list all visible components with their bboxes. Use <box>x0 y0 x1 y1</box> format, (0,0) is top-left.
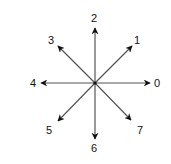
direction-label-1: 1 <box>134 34 140 46</box>
direction-label-3: 3 <box>48 34 54 46</box>
direction-arrow-3 <box>58 46 95 83</box>
direction-arrow-7 <box>95 83 131 120</box>
direction-label-5: 5 <box>46 124 52 136</box>
direction-label-2: 2 <box>91 12 97 24</box>
center-point <box>93 81 96 84</box>
direction-arrow-5 <box>58 83 95 121</box>
direction-label-0: 0 <box>154 77 160 89</box>
direction-label-7: 7 <box>137 124 143 136</box>
direction-arrow-1 <box>95 46 132 83</box>
direction-diagram: 01234567 <box>0 0 171 164</box>
direction-label-4: 4 <box>30 77 36 89</box>
direction-label-6: 6 <box>91 142 97 154</box>
